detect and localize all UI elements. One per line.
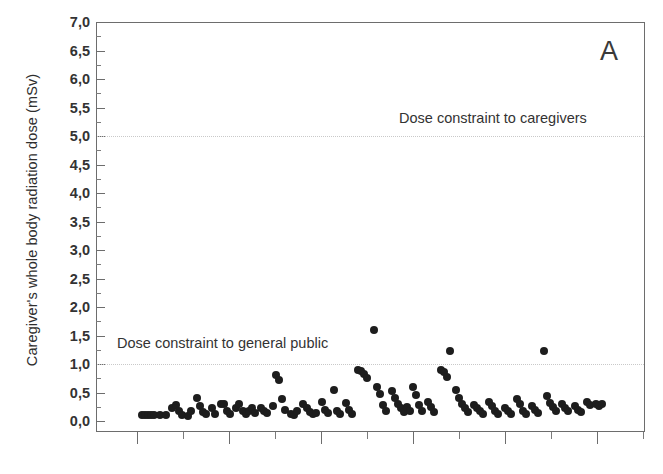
y-tick-major <box>96 307 105 308</box>
data-point <box>522 410 530 418</box>
y-tick-minor <box>96 150 101 151</box>
y-tick-major <box>96 250 105 251</box>
x-tick-minor <box>367 432 368 439</box>
y-tick-label: 1,5 <box>42 328 90 344</box>
x-tick-minor <box>551 432 552 439</box>
y-tick-minor <box>96 93 101 94</box>
x-tick-major <box>229 432 230 444</box>
y-tick-minor <box>96 122 101 123</box>
y-tick-minor <box>96 179 101 180</box>
y-tick-label: 3,0 <box>42 242 90 258</box>
plot-area <box>96 22 645 432</box>
y-tick-major <box>96 336 105 337</box>
data-point <box>330 386 338 394</box>
y-tick-label: 0,5 <box>42 385 90 401</box>
data-point <box>324 409 332 417</box>
data-point <box>464 408 472 416</box>
data-point <box>293 407 301 415</box>
y-tick-major <box>96 222 105 223</box>
data-point <box>446 347 454 355</box>
data-point <box>409 383 417 391</box>
annotation-general-public: Dose constraint to general public <box>117 335 328 351</box>
data-point <box>312 409 320 417</box>
data-point <box>162 411 170 419</box>
data-point <box>452 386 460 394</box>
y-tick-major <box>96 421 105 422</box>
y-tick-major <box>96 193 105 194</box>
data-point <box>382 407 390 415</box>
y-tick-label: 2,5 <box>42 271 90 287</box>
x-tick-minor <box>643 432 644 439</box>
y-axis-tick-labels: 0,00,51,01,52,02,53,03,54,04,55,05,56,06… <box>34 0 90 474</box>
data-point <box>187 407 195 415</box>
y-tick-major <box>96 393 105 394</box>
data-point <box>598 400 606 408</box>
x-tick-major <box>597 432 598 444</box>
data-point <box>443 373 451 381</box>
y-tick-label: 0,0 <box>42 413 90 429</box>
data-point <box>370 326 378 334</box>
y-tick-minor <box>96 350 101 351</box>
y-tick-label: 2,0 <box>42 299 90 315</box>
y-tick-label: 4,5 <box>42 157 90 173</box>
data-point <box>211 410 219 418</box>
y-tick-minor <box>96 207 101 208</box>
y-tick-label: 3,5 <box>42 214 90 230</box>
y-tick-major <box>96 108 105 109</box>
y-tick-minor <box>96 407 101 408</box>
data-point <box>418 407 426 415</box>
data-point <box>363 374 371 382</box>
data-point <box>336 410 344 418</box>
data-point <box>412 391 420 399</box>
data-point <box>275 376 283 384</box>
y-tick-major <box>96 51 105 52</box>
data-point <box>534 409 542 417</box>
x-tick-major <box>321 432 322 444</box>
data-point <box>552 407 560 415</box>
y-tick-minor <box>96 236 101 237</box>
data-point <box>540 347 548 355</box>
x-tick-minor <box>183 432 184 439</box>
y-tick-label: 5,0 <box>42 128 90 144</box>
x-tick-minor <box>275 432 276 439</box>
x-tick-minor <box>459 432 460 439</box>
y-tick-minor <box>96 321 101 322</box>
reference-line <box>97 136 644 137</box>
y-tick-minor <box>96 378 101 379</box>
x-tick-major <box>137 432 138 444</box>
y-tick-major <box>96 165 105 166</box>
y-tick-major <box>96 79 105 80</box>
scatter-figure: Caregiver's whole body radiation dose (m… <box>0 0 663 474</box>
y-tick-label: 7,0 <box>42 14 90 30</box>
y-tick-label: 1,0 <box>42 356 90 372</box>
data-point <box>263 409 271 417</box>
data-point <box>406 407 414 415</box>
y-tick-label: 5,5 <box>42 100 90 116</box>
y-tick-label: 6,5 <box>42 43 90 59</box>
y-tick-label: 4,0 <box>42 185 90 201</box>
y-tick-minor <box>96 293 101 294</box>
panel-label: A <box>600 36 619 67</box>
data-point <box>193 394 201 402</box>
data-point <box>479 410 487 418</box>
y-tick-major <box>96 279 105 280</box>
data-point <box>348 410 356 418</box>
y-tick-minor <box>96 65 101 66</box>
y-tick-minor <box>96 264 101 265</box>
x-tick-major <box>413 432 414 444</box>
data-point <box>278 395 286 403</box>
data-point <box>376 390 384 398</box>
data-point <box>430 408 438 416</box>
x-tick-major <box>505 432 506 444</box>
data-point <box>269 402 277 410</box>
data-point <box>577 408 585 416</box>
annotation-caregivers: Dose constraint to caregivers <box>399 110 587 126</box>
data-point <box>507 410 515 418</box>
y-tick-label: 6,0 <box>42 71 90 87</box>
y-tick-minor <box>96 36 101 37</box>
y-tick-major <box>96 22 105 23</box>
reference-line <box>97 364 644 365</box>
